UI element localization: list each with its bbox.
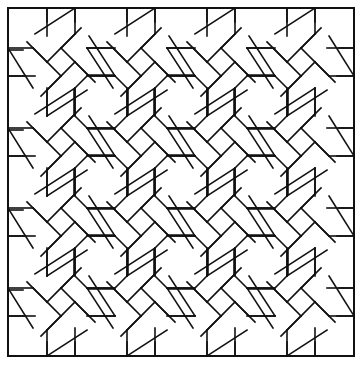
octagon-cell bbox=[154, 155, 208, 209]
octagon-cell bbox=[154, 235, 208, 289]
diamond-edge bbox=[61, 128, 75, 142]
band-cut bbox=[155, 302, 175, 322]
diamond-edge bbox=[207, 288, 221, 302]
octagon-cell bbox=[74, 75, 128, 129]
band-cut bbox=[301, 28, 321, 48]
band-edge bbox=[47, 330, 87, 356]
band-cut bbox=[281, 316, 301, 336]
band-edge bbox=[273, 48, 287, 62]
knot-motif bbox=[167, 168, 275, 276]
octagon-cell bbox=[74, 155, 128, 209]
knot-motif bbox=[247, 168, 354, 276]
diamond-edge bbox=[141, 288, 155, 302]
diamond-edge bbox=[207, 142, 221, 156]
band-cut bbox=[41, 236, 61, 256]
diamond-edge bbox=[287, 48, 301, 62]
diamond-edge bbox=[127, 288, 141, 302]
band-edge bbox=[195, 8, 235, 34]
diamond-edge bbox=[301, 142, 315, 156]
band-edge bbox=[273, 128, 287, 142]
band-edge bbox=[33, 48, 47, 62]
knot-motif bbox=[87, 168, 195, 276]
band-edge bbox=[273, 288, 287, 302]
knot-motif bbox=[8, 168, 115, 276]
band-edge bbox=[8, 48, 33, 88]
diamond-edge bbox=[287, 142, 301, 156]
diamond-edge bbox=[47, 142, 61, 156]
band-edge bbox=[8, 288, 33, 328]
knot-motif bbox=[8, 8, 115, 116]
diamond-edge bbox=[221, 288, 235, 302]
diamond-edge bbox=[287, 62, 301, 76]
diamond-edge bbox=[47, 288, 61, 302]
diamond-edge bbox=[47, 222, 61, 236]
octagon-cell bbox=[234, 235, 288, 289]
diamond-edge bbox=[207, 208, 221, 222]
diamond-edge bbox=[127, 62, 141, 76]
band-cut bbox=[201, 316, 221, 336]
diamond-edge bbox=[221, 48, 235, 62]
diamond-edge bbox=[61, 48, 75, 62]
band-edge bbox=[329, 196, 354, 236]
diamond-edge bbox=[221, 128, 235, 142]
octagon-cell bbox=[234, 155, 288, 209]
diamond-edge bbox=[221, 302, 235, 316]
interlace-pattern bbox=[0, 0, 363, 366]
outer-border bbox=[8, 8, 354, 356]
knot-motif bbox=[247, 88, 354, 196]
diamond-edge bbox=[141, 222, 155, 236]
knot-motif bbox=[167, 8, 275, 116]
band-cut bbox=[141, 28, 161, 48]
knot-motif bbox=[247, 248, 354, 356]
diamond-edge bbox=[221, 62, 235, 76]
band-cut bbox=[41, 76, 61, 96]
band-cut bbox=[315, 62, 335, 82]
band-edge bbox=[33, 208, 47, 222]
diamond-edge bbox=[47, 48, 61, 62]
band-edge bbox=[329, 116, 354, 156]
diamond-edge bbox=[141, 208, 155, 222]
band-edge bbox=[193, 48, 207, 62]
band-edge bbox=[127, 330, 167, 356]
band-cut bbox=[301, 108, 321, 128]
diamond-edge bbox=[127, 48, 141, 62]
band-edge bbox=[193, 288, 207, 302]
band-cut bbox=[315, 302, 335, 322]
diamond-edge bbox=[207, 62, 221, 76]
band-edge bbox=[207, 330, 247, 356]
band-edge bbox=[193, 208, 207, 222]
octagon-cell bbox=[234, 75, 288, 129]
diamond-edge bbox=[47, 208, 61, 222]
diamond-edge bbox=[301, 62, 315, 76]
knot-motif bbox=[87, 8, 195, 116]
diamond-edge bbox=[207, 302, 221, 316]
band-edge bbox=[8, 128, 33, 168]
diamond-edge bbox=[221, 142, 235, 156]
diamond-edge bbox=[287, 208, 301, 222]
diamond-edge bbox=[301, 48, 315, 62]
band-edge bbox=[193, 128, 207, 142]
diamond-edge bbox=[141, 48, 155, 62]
band-edge bbox=[113, 48, 127, 62]
diamond-edge bbox=[301, 208, 315, 222]
diamond-edge bbox=[127, 208, 141, 222]
diamond-edge bbox=[221, 222, 235, 236]
diamond-edge bbox=[127, 302, 141, 316]
diamond-edge bbox=[127, 128, 141, 142]
diamond-edge bbox=[141, 128, 155, 142]
band-edge bbox=[287, 330, 327, 356]
diamond-edge bbox=[287, 302, 301, 316]
band-edge bbox=[329, 276, 354, 316]
knot-motif bbox=[8, 248, 115, 356]
diamond-edge bbox=[301, 288, 315, 302]
diamond-edge bbox=[207, 222, 221, 236]
band-cut bbox=[75, 302, 95, 322]
diamond-edge bbox=[301, 302, 315, 316]
knot-motif bbox=[167, 248, 275, 356]
diamond-edge bbox=[141, 62, 155, 76]
band-cut bbox=[235, 302, 255, 322]
diamond-edge bbox=[61, 302, 75, 316]
diamond-edge bbox=[287, 288, 301, 302]
band-cut bbox=[315, 142, 335, 162]
diamond-edge bbox=[61, 222, 75, 236]
